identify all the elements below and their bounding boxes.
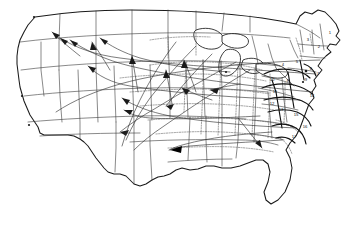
region-label-14: 14 bbox=[310, 93, 315, 98]
region-label-15: 15 bbox=[294, 112, 299, 117]
region-label-13: 13 bbox=[279, 107, 284, 112]
national-outline bbox=[17, 10, 340, 204]
us-flow-map: 1234567891011121314151617 bbox=[0, 0, 352, 225]
region-label-11: 11 bbox=[273, 89, 278, 94]
region-label-10: 10 bbox=[270, 77, 275, 82]
region-label-16: 16 bbox=[303, 124, 308, 129]
region-label-12: 12 bbox=[270, 101, 275, 106]
map-canvas: 1234567891011121314151617 bbox=[0, 0, 352, 225]
region-label-17: 17 bbox=[292, 134, 297, 139]
